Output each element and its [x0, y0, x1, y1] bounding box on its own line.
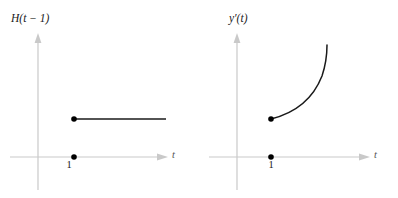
y-axis-arrowhead-icon [35, 33, 42, 43]
y-axis-arrowhead-icon [234, 33, 241, 43]
x-axis-arrowhead-icon [359, 153, 370, 160]
panel-derivative-curve: y′(t) 1 t [199, 0, 398, 198]
x-axis-label: t [374, 150, 377, 161]
x-axis-arrowhead-icon [157, 153, 168, 160]
plot-canvas-left [0, 0, 199, 198]
x-tick-label-1: 1 [263, 160, 279, 171]
panel-step-function: H(t − 1) 1 t [0, 0, 199, 198]
plot-canvas-right [199, 0, 398, 198]
x-tick-dot-1 [71, 154, 77, 160]
figure-two-panel-plot: H(t − 1) 1 t y′(t) 1 t [0, 0, 398, 198]
x-tick-label-1: 1 [61, 160, 77, 171]
x-axis-label: t [172, 150, 175, 161]
exponential-curve [271, 45, 327, 119]
y-axis-label: H(t − 1) [11, 13, 49, 25]
step-left-endpoint-dot [71, 116, 77, 122]
y-axis-label: y′(t) [229, 13, 247, 25]
curve-left-endpoint-dot [268, 116, 274, 122]
